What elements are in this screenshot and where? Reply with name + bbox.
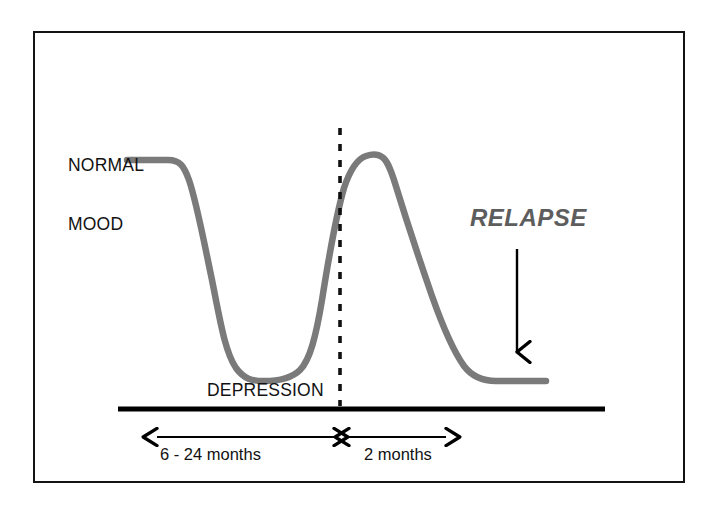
normal-mood-label: NORMAL MOOD bbox=[68, 117, 144, 274]
mood-curve-path bbox=[127, 155, 546, 381]
relapse-label: RELAPSE bbox=[470, 205, 587, 232]
depression-label: DEPRESSION bbox=[207, 381, 324, 401]
normal-mood-label-line1: NORMAL bbox=[68, 156, 144, 176]
duration-label-second-phase: 2 months bbox=[364, 445, 432, 463]
normal-mood-label-line2: MOOD bbox=[68, 215, 144, 235]
figure-root: NORMAL MOOD DEPRESSION RELAPSE 6 - 24 mo… bbox=[0, 0, 718, 508]
duration-label-first-phase: 6 - 24 months bbox=[160, 445, 261, 463]
